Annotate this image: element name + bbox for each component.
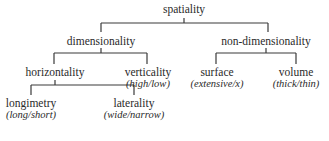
node-label: non-dimensionality: [221, 35, 310, 47]
node-volume: volume (thick/thin): [273, 66, 320, 90]
node-label: spatiality: [163, 3, 205, 15]
node-horizontality: horizontality: [26, 66, 85, 78]
node-label: volume: [273, 66, 320, 78]
node-label: longimetry: [6, 97, 56, 109]
node-non-dimensionality: non-dimensionality: [221, 35, 310, 47]
node-surface: surface (extensive/x): [190, 66, 243, 90]
node-verticality: verticality (high/low): [125, 66, 172, 90]
node-label: horizontality: [26, 66, 85, 78]
node-longimetry: longimetry (long/short): [6, 97, 56, 121]
node-label: laterality: [104, 97, 164, 109]
node-sublabel: (long/short): [6, 109, 56, 121]
node-spatiality: spatiality: [163, 3, 205, 15]
node-label: verticality: [125, 66, 172, 78]
node-dimensionality: dimensionality: [67, 35, 135, 47]
node-label: dimensionality: [67, 35, 135, 47]
node-sublabel: (wide/narrow): [104, 109, 164, 121]
node-laterality: laterality (wide/narrow): [104, 97, 164, 121]
node-sublabel: (high/low): [125, 78, 172, 90]
node-sublabel: (thick/thin): [273, 78, 320, 90]
node-label: surface: [190, 66, 243, 78]
node-sublabel: (extensive/x): [190, 78, 243, 90]
